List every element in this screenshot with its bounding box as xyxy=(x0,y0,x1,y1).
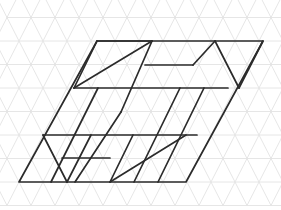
figure-canvas xyxy=(0,0,281,210)
triangular-grid xyxy=(0,0,281,206)
grid-line-falling xyxy=(0,0,7,206)
grid-line-falling xyxy=(163,0,281,206)
grid-line-falling xyxy=(187,0,281,206)
isometric-dissection-figure xyxy=(0,0,281,210)
upper-piece-right-slant xyxy=(121,41,152,112)
grid-line-rising xyxy=(0,0,67,206)
grid-line-rising xyxy=(0,0,115,206)
grid-line-rising xyxy=(0,0,43,206)
grid-line-falling xyxy=(235,0,281,206)
mid-upper-right-slant xyxy=(193,41,215,65)
inner-slant-b xyxy=(75,112,121,182)
grid-line-falling xyxy=(211,0,281,206)
